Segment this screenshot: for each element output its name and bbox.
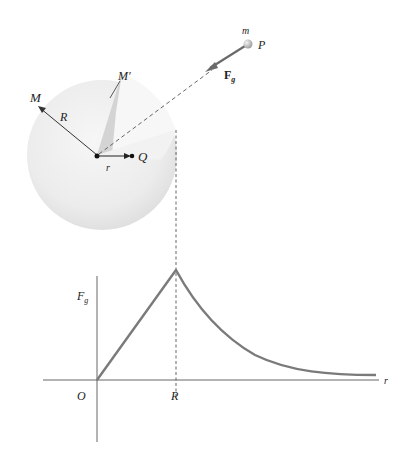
- label-Q: Q: [138, 149, 148, 164]
- label-M: M: [29, 90, 42, 105]
- force-curve: [97, 270, 376, 380]
- label-m: m: [242, 25, 249, 36]
- label-Fg-force: Fg: [224, 68, 235, 84]
- origin-label: O: [77, 389, 86, 403]
- x-axis-label: r: [384, 375, 388, 386]
- point-Q-dot: [130, 154, 135, 159]
- label-r-sphere: r: [106, 162, 110, 173]
- label-M-prime: M′: [117, 69, 131, 83]
- y-axis-label: Fg: [76, 289, 88, 305]
- R-tick-label: R: [170, 389, 179, 403]
- diagram-canvas: M R M′ Q r m P Fg Fg r O R: [0, 0, 411, 455]
- particle-m: [244, 40, 253, 49]
- label-P: P: [257, 38, 266, 52]
- label-R-sphere: R: [59, 110, 68, 124]
